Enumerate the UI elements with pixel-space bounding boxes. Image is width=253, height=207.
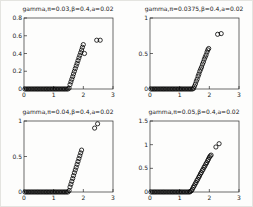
svg-text:3: 3 [111, 91, 115, 98]
svg-text:0: 0 [18, 188, 22, 195]
scatter-plot-bottom-right: 012300.511.5 [127, 104, 253, 207]
svg-text:0.2: 0.2 [12, 67, 22, 74]
svg-text:0: 0 [18, 85, 22, 92]
svg-text:0.5: 0.5 [12, 153, 22, 160]
svg-text:0: 0 [148, 194, 152, 201]
subplot-top-left: gamma,π=0.03,β=0.4,a=0.02 012300.20.40.6… [1, 1, 128, 105]
svg-text:1.5: 1.5 [138, 117, 148, 124]
svg-text:0: 0 [22, 194, 26, 201]
svg-text:0.8: 0.8 [12, 14, 22, 21]
svg-text:1: 1 [178, 194, 182, 201]
svg-text:0: 0 [148, 91, 152, 98]
svg-text:1: 1 [52, 194, 56, 201]
svg-text:0: 0 [144, 85, 148, 92]
svg-text:2: 2 [207, 91, 211, 98]
svg-text:1: 1 [178, 91, 182, 98]
scatter-plot-bottom-left: 012300.51 [1, 104, 128, 207]
scatter-plot-top-right: 012300.51 [127, 1, 253, 105]
svg-text:1: 1 [52, 91, 56, 98]
subplot-bottom-left: gamma,π=0.04,β=0.4,a=0.02 012300.51 [1, 104, 128, 207]
subplot-bottom-right: gamma,π=0.05,β=0.4,a=0.02 012300.511.5 [127, 104, 253, 207]
svg-text:2: 2 [207, 194, 211, 201]
svg-text:0.4: 0.4 [12, 50, 22, 57]
svg-text:2: 2 [81, 91, 85, 98]
svg-text:3: 3 [237, 91, 241, 98]
svg-text:0.6: 0.6 [12, 32, 22, 39]
figure-canvas: gamma,π=0.03,β=0.4,a=0.02 012300.20.40.6… [0, 0, 253, 207]
svg-text:2: 2 [81, 194, 85, 201]
svg-text:0: 0 [144, 188, 148, 195]
svg-text:1: 1 [18, 117, 22, 124]
svg-text:1: 1 [144, 14, 148, 21]
svg-text:1: 1 [144, 141, 148, 148]
scatter-plot-top-left: 012300.20.40.60.8 [1, 1, 128, 105]
subplot-top-right: gamma,π=0.0375,β=0.4,a=0.02 012300.51 [127, 1, 253, 105]
svg-text:3: 3 [237, 194, 241, 201]
svg-text:0: 0 [22, 91, 26, 98]
svg-text:0.5: 0.5 [138, 50, 148, 57]
svg-text:0.5: 0.5 [138, 164, 148, 171]
svg-text:3: 3 [111, 194, 115, 201]
